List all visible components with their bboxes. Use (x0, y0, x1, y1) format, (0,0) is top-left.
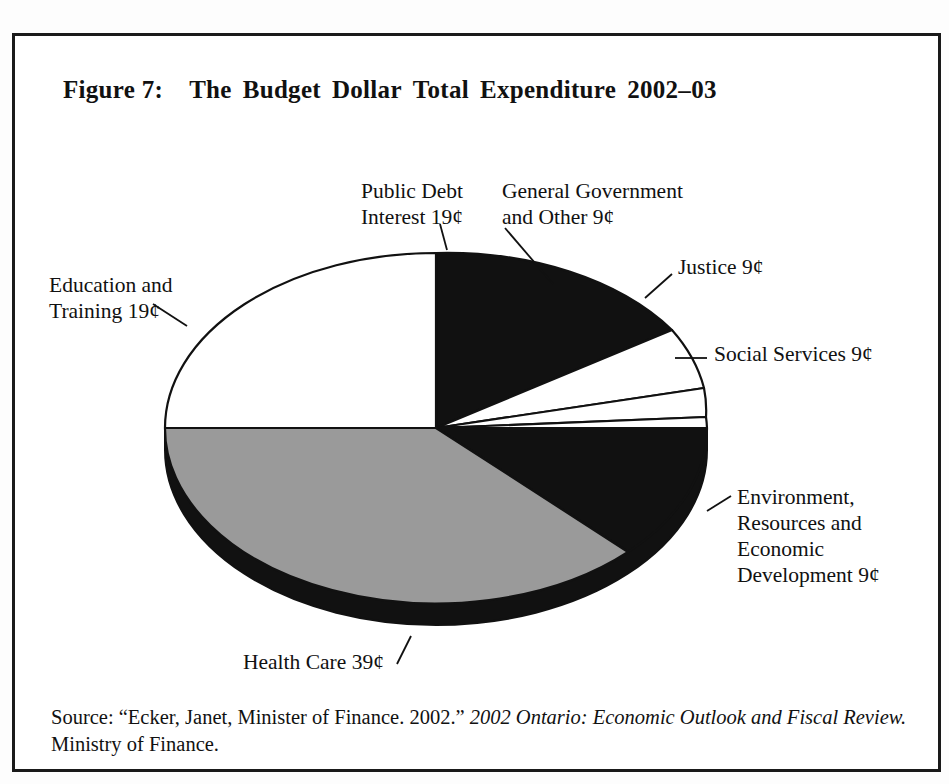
label-environment-resources-economic-development: Environment, Resources and Economic Deve… (737, 484, 937, 588)
label-education-and-training: Education and Training 19¢ (49, 272, 264, 324)
source-publication-title: 2002 Ontario: Economic Outlook and Fisca… (470, 706, 906, 728)
label-health-care: Health Care 39¢ (243, 649, 473, 675)
source-prefix: Source: “Ecker, Janet, Minister of Finan… (51, 706, 470, 728)
leader-line-environment (707, 496, 731, 511)
source-suffix: Ministry of Finance. (51, 733, 219, 755)
source-note: Source: “Ecker, Janet, Minister of Finan… (51, 704, 913, 758)
figure-frame: Figure 7:TheBudgetDollarTotalExpenditure… (12, 33, 941, 772)
label-general-government: General Government and Other 9¢ (502, 178, 782, 230)
leader-line-justice (645, 274, 672, 298)
label-justice: Justice 9¢ (678, 254, 878, 280)
pie-chart: Public Debt Interest 19¢ General Governm… (15, 36, 944, 676)
label-social-services: Social Services 9¢ (714, 341, 944, 367)
label-public-debt-interest: Public Debt Interest 19¢ (307, 178, 517, 230)
